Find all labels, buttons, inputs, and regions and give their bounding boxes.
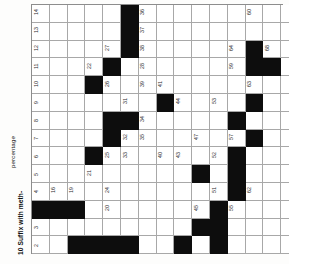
grid-cell[interactable]: 44: [174, 94, 192, 112]
grid-cell[interactable]: [68, 23, 86, 41]
grid-cell[interactable]: [139, 183, 157, 201]
grid-cell[interactable]: [263, 23, 281, 41]
grid-cell[interactable]: [281, 23, 289, 41]
grid-cell[interactable]: 6: [32, 147, 50, 165]
grid-cell[interactable]: 21: [85, 165, 103, 183]
grid-cell[interactable]: [228, 76, 246, 94]
grid-cell[interactable]: [50, 165, 68, 183]
crossword-grid[interactable]: 1436601337122738646811222859102639416393…: [31, 4, 283, 254]
grid-cell[interactable]: [210, 41, 228, 59]
grid-cell[interactable]: 55: [228, 201, 246, 219]
grid-cell[interactable]: [246, 23, 264, 41]
grid-cell[interactable]: 12: [32, 41, 50, 59]
grid-cell[interactable]: [246, 236, 264, 254]
grid-cell[interactable]: [157, 112, 175, 130]
grid-cell[interactable]: [68, 147, 86, 165]
grid-cell[interactable]: [174, 201, 192, 219]
grid-cell[interactable]: [68, 165, 86, 183]
grid-cell[interactable]: [281, 94, 289, 112]
grid-cell[interactable]: [85, 23, 103, 41]
grid-cell[interactable]: [281, 183, 289, 201]
grid-cell[interactable]: [103, 219, 121, 237]
grid-cell[interactable]: 16: [50, 183, 68, 201]
grid-cell[interactable]: [85, 183, 103, 201]
grid-cell[interactable]: [210, 112, 228, 130]
grid-cell[interactable]: [281, 5, 289, 23]
grid-cell[interactable]: [263, 165, 281, 183]
grid-cell[interactable]: [50, 76, 68, 94]
grid-cell[interactable]: 64: [228, 41, 246, 59]
grid-cell[interactable]: 43: [174, 147, 192, 165]
grid-cell[interactable]: [263, 130, 281, 148]
grid-cell[interactable]: [121, 58, 139, 76]
grid-cell[interactable]: 4: [32, 183, 50, 201]
grid-cell[interactable]: [68, 5, 86, 23]
grid-cell[interactable]: 19: [68, 183, 86, 201]
grid-cell[interactable]: 26: [103, 76, 121, 94]
grid-cell[interactable]: [85, 5, 103, 23]
grid-cell[interactable]: [121, 183, 139, 201]
grid-cell[interactable]: 60: [246, 5, 264, 23]
grid-cell[interactable]: 31: [121, 94, 139, 112]
grid-cell[interactable]: 45: [192, 201, 210, 219]
grid-cell[interactable]: [228, 236, 246, 254]
grid-cell[interactable]: 37: [139, 23, 157, 41]
grid-cell[interactable]: 38: [139, 41, 157, 59]
grid-cell[interactable]: 3: [32, 219, 50, 237]
grid-cell[interactable]: [210, 165, 228, 183]
grid-cell[interactable]: 8: [32, 112, 50, 130]
grid-cell[interactable]: [192, 23, 210, 41]
grid-cell[interactable]: 5: [32, 165, 50, 183]
grid-cell[interactable]: [157, 130, 175, 148]
grid-cell[interactable]: [174, 183, 192, 201]
grid-cell[interactable]: 52: [210, 147, 228, 165]
grid-cell[interactable]: [281, 236, 289, 254]
grid-cell[interactable]: [50, 147, 68, 165]
grid-cell[interactable]: [121, 76, 139, 94]
grid-cell[interactable]: 62: [246, 183, 264, 201]
grid-cell[interactable]: [157, 201, 175, 219]
grid-cell[interactable]: [157, 236, 175, 254]
grid-cell[interactable]: [68, 130, 86, 148]
grid-cell[interactable]: [85, 219, 103, 237]
grid-cell[interactable]: [174, 112, 192, 130]
grid-cell[interactable]: 20: [103, 201, 121, 219]
grid-cell[interactable]: [228, 94, 246, 112]
grid-cell[interactable]: [139, 236, 157, 254]
grid-cell[interactable]: 10: [32, 76, 50, 94]
grid-cell[interactable]: 35: [139, 130, 157, 148]
grid-cell[interactable]: [50, 112, 68, 130]
grid-cell[interactable]: [210, 130, 228, 148]
grid-cell[interactable]: [174, 58, 192, 76]
grid-cell[interactable]: [263, 236, 281, 254]
grid-cell[interactable]: [85, 94, 103, 112]
grid-cell[interactable]: 59: [228, 58, 246, 76]
grid-cell[interactable]: 53: [210, 94, 228, 112]
grid-cell[interactable]: [103, 94, 121, 112]
grid-cell[interactable]: [85, 41, 103, 59]
grid-cell[interactable]: 7: [32, 130, 50, 148]
grid-cell[interactable]: [139, 94, 157, 112]
grid-cell[interactable]: [263, 201, 281, 219]
grid-cell[interactable]: [246, 112, 264, 130]
grid-cell[interactable]: 34: [139, 112, 157, 130]
grid-cell[interactable]: 25: [103, 147, 121, 165]
grid-cell[interactable]: [246, 219, 264, 237]
grid-cell[interactable]: [157, 58, 175, 76]
grid-cell[interactable]: [139, 219, 157, 237]
grid-cell[interactable]: [68, 112, 86, 130]
grid-cell[interactable]: [246, 147, 264, 165]
grid-cell[interactable]: [192, 5, 210, 23]
grid-cell[interactable]: 11: [32, 58, 50, 76]
grid-cell[interactable]: [174, 165, 192, 183]
grid-cell[interactable]: [263, 112, 281, 130]
grid-cell[interactable]: [85, 130, 103, 148]
grid-cell[interactable]: [68, 41, 86, 59]
grid-cell[interactable]: [192, 147, 210, 165]
grid-cell[interactable]: [281, 76, 289, 94]
grid-cell[interactable]: [121, 201, 139, 219]
grid-cell[interactable]: [85, 112, 103, 130]
grid-cell[interactable]: [50, 219, 68, 237]
grid-cell[interactable]: 13: [32, 23, 50, 41]
grid-cell[interactable]: [174, 23, 192, 41]
